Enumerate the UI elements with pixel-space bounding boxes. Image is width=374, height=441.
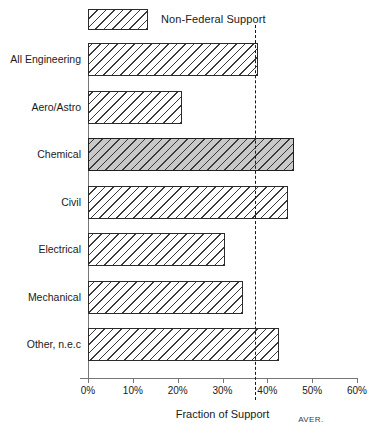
bar-row: Civil <box>88 186 357 219</box>
average-marker-label: AVER. <box>298 415 323 424</box>
x-tick-label: 10% <box>123 385 143 396</box>
x-tick <box>178 378 179 383</box>
bar-row: Other, n.e.c <box>88 328 357 361</box>
average-line <box>255 25 256 400</box>
x-tick-label: 20% <box>168 385 188 396</box>
category-label-aero-astro: Aero/Astro <box>31 91 81 124</box>
x-tick-label: 60% <box>347 385 367 396</box>
category-label-mechanical: Mechanical <box>28 281 81 314</box>
category-label-chemical: Chemical <box>37 138 81 171</box>
bar-electrical[interactable] <box>88 233 225 266</box>
x-tick <box>88 378 89 383</box>
x-tick-label: 40% <box>257 385 277 396</box>
x-tick <box>223 378 224 383</box>
legend-label: Non-Federal Support <box>161 13 266 25</box>
chart-legend: Non-Federal Support <box>88 8 266 30</box>
x-tick <box>133 378 134 383</box>
x-tick <box>357 378 358 383</box>
bar-row: All Engineering <box>88 43 357 76</box>
bar-chemical[interactable] <box>88 138 294 171</box>
category-label-electrical: Electrical <box>38 233 81 266</box>
category-label-civil: Civil <box>61 186 81 219</box>
x-tick <box>312 378 313 383</box>
plot-area: All EngineeringAero/AstroChemicalCivilEl… <box>88 43 357 378</box>
x-tick-label: 50% <box>302 385 322 396</box>
bar-row: Electrical <box>88 233 357 266</box>
x-tick <box>267 378 268 383</box>
x-tick-label: 30% <box>212 385 232 396</box>
x-axis-line <box>80 378 357 379</box>
bar-aero-astro[interactable] <box>88 91 182 124</box>
category-label-other-n-e-c: Other, n.e.c <box>27 328 81 361</box>
bar-chart: Non-Federal Support All EngineeringAero/… <box>0 0 374 441</box>
x-tick-label: 0% <box>81 385 95 396</box>
bar-row: Mechanical <box>88 281 357 314</box>
bar-row: Chemical <box>88 138 357 171</box>
bar-all-engineering[interactable] <box>88 43 258 76</box>
bar-civil[interactable] <box>88 186 288 219</box>
bar-other-n-e-c[interactable] <box>88 328 279 361</box>
bar-row: Aero/Astro <box>88 91 357 124</box>
bar-mechanical[interactable] <box>88 281 243 314</box>
hatched-swatch-icon <box>88 9 148 30</box>
category-label-all-engineering: All Engineering <box>10 43 81 76</box>
